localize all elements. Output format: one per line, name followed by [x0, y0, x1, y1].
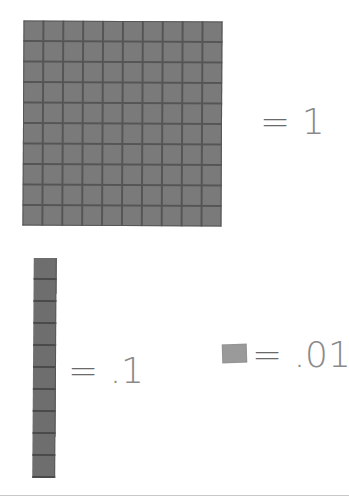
equals-sign: =: [68, 350, 98, 391]
rod-block-ten: [32, 258, 57, 478]
bottom-divider: [0, 495, 349, 496]
equals-sign: =: [260, 101, 290, 142]
rod-value: .1: [110, 350, 144, 391]
unit-block-one: [222, 344, 248, 364]
equals-sign: =: [252, 334, 282, 375]
unit-value-label: = .01: [252, 334, 349, 375]
flat-value-label: = 1: [260, 101, 325, 142]
flat-block-hundred-grid: [22, 20, 222, 226]
unit-value: .01: [294, 334, 349, 375]
rod-value-label: = .1: [68, 350, 144, 391]
flat-value: 1: [302, 101, 325, 142]
